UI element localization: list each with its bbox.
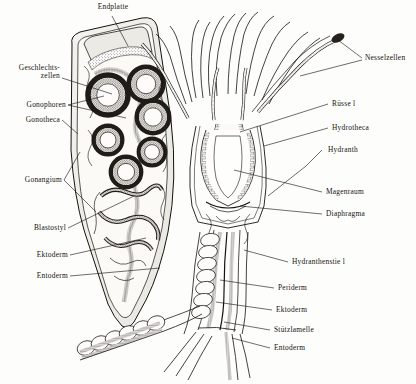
label-gonophoren: Gonophoren — [0, 101, 66, 110]
label-entoderm-right: Entoderm — [274, 344, 305, 353]
leader-hydranth — [268, 150, 322, 196]
leader-ruessel — [240, 104, 328, 132]
base-stem-group — [164, 327, 250, 380]
base-branch-left3 — [188, 336, 212, 380]
leader-entoderm-right — [232, 338, 270, 348]
gonophore — [93, 125, 123, 155]
leader-hydranthenstiel — [244, 250, 288, 262]
gonophore — [87, 74, 129, 116]
hydroid-anatomy-figure: Endplatte Geschlechts- zellen Gonophoren… — [0, 0, 416, 384]
leader-diaphragma — [240, 206, 322, 214]
gonophore — [110, 156, 142, 188]
tentacles — [156, 12, 320, 104]
label-hydrotheca: Hydrotheca — [332, 124, 369, 133]
gonophore — [136, 100, 170, 134]
label-hydranthenstiel: Hydranthenstie l — [292, 258, 345, 267]
label-gonangium: Gonangium — [0, 176, 62, 185]
base-junction — [198, 327, 236, 330]
label-ektoderm-right: Ektoderm — [276, 306, 307, 315]
label-geschlechtszellen-line2: zellen — [41, 71, 60, 80]
leader-nesselzellen-a — [338, 40, 362, 58]
base-stem-right2 — [232, 334, 238, 380]
label-blastostyl: Blastostyl — [0, 224, 66, 233]
label-diaphragma: Diaphragma — [326, 210, 365, 219]
label-hydranth: Hydranth — [328, 146, 358, 155]
label-ektoderm-left: Ektoderm — [0, 251, 68, 260]
label-periderm: Periderm — [278, 284, 307, 293]
leader-nesselzellen-b — [300, 60, 362, 76]
leader-hydrotheca — [264, 128, 328, 146]
hydranth-group — [142, 12, 346, 244]
label-magenraum: Magenraum — [326, 188, 364, 197]
label-entoderm-left: Entoderm — [0, 272, 68, 281]
label-stuetzlamelle: Stützlamelle — [274, 326, 314, 335]
label-nesselzellen: Nesselzellen — [365, 54, 405, 63]
stiel-axis-right — [234, 230, 240, 332]
stiel-periderm-outer-right — [242, 232, 248, 334]
stolon-ektoderm — [80, 323, 160, 352]
leader-ektoderm-right — [216, 302, 272, 310]
nematocyst-tentacles — [142, 31, 346, 120]
nesselzellen-tentacle-right — [258, 40, 336, 112]
base-branch-left2 — [176, 334, 204, 376]
diaphragma-fold — [210, 206, 246, 212]
gonophore — [128, 66, 164, 102]
label-gonotheca: Gonotheca — [0, 116, 60, 125]
label-endplatte: Endplatte — [78, 3, 148, 12]
label-geschlechtszellen: Geschlechts- zellen — [0, 64, 60, 81]
base-coenosarc — [226, 332, 230, 380]
label-ruessel: Rüsse l — [332, 100, 355, 109]
leader-periderm — [220, 280, 274, 288]
